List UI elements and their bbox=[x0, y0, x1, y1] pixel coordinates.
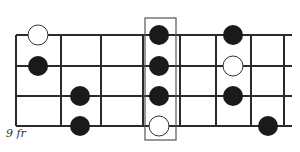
fretboard-diagram bbox=[0, 0, 300, 152]
filled-note-dot bbox=[149, 56, 169, 76]
open-note-dot bbox=[223, 56, 243, 76]
open-note-dot bbox=[149, 116, 169, 136]
filled-note-dot bbox=[70, 116, 90, 136]
note-dots bbox=[28, 25, 278, 136]
filled-note-dot bbox=[258, 116, 278, 136]
fret-position-label: 9 fr bbox=[6, 127, 26, 140]
filled-note-dot bbox=[223, 86, 243, 106]
filled-note-dot bbox=[28, 56, 48, 76]
filled-note-dot bbox=[223, 25, 243, 45]
open-note-dot bbox=[28, 25, 48, 45]
filled-note-dot bbox=[149, 86, 169, 106]
fret-lines bbox=[16, 35, 284, 126]
filled-note-dot bbox=[70, 86, 90, 106]
filled-note-dot bbox=[149, 25, 169, 45]
